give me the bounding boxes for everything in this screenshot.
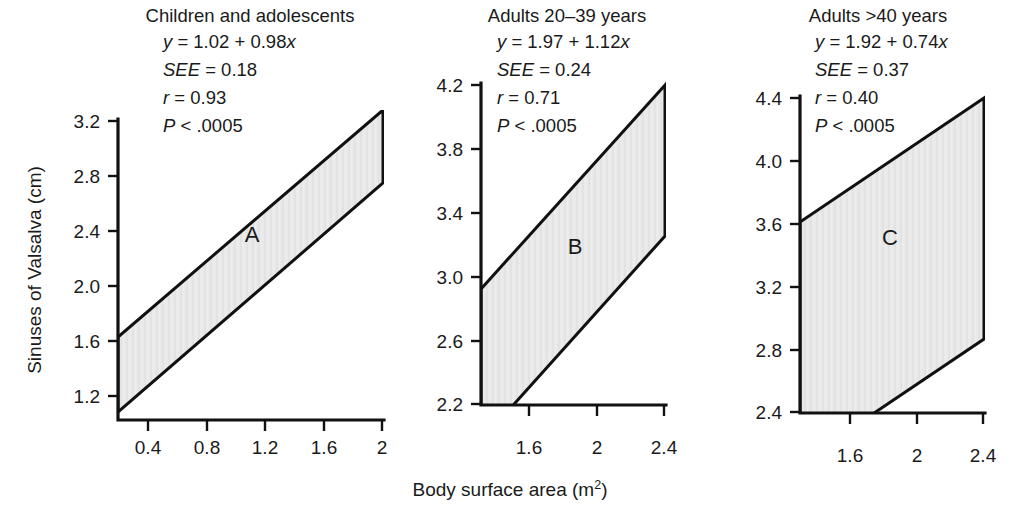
panel-c-r: r = 0.40 (815, 87, 878, 108)
x-axis-title: Body surface area (m2) (413, 478, 608, 500)
panel-c-ytick-0: 4.4 (756, 88, 783, 109)
panel-c-xtick-2: 2.4 (970, 445, 997, 466)
panel-b-letter: B (568, 234, 583, 259)
panel-a-band (118, 110, 383, 412)
panel-b-x-ticks (529, 405, 664, 416)
figure-root: Children and adolescents y = 1.02 + 0.98… (0, 0, 1031, 512)
panel-c-title: Adults >40 years (809, 5, 947, 26)
panel-c-see: SEE = 0.37 (815, 59, 909, 80)
panel-a: Children and adolescents y = 1.02 + 0.98… (74, 5, 388, 458)
panel-c-xtick-0: 1.6 (837, 445, 863, 466)
panel-a-ytick-2: 2.4 (74, 221, 101, 242)
panel-b-xtick-2: 2.4 (651, 437, 678, 458)
panel-a-ytick-0: 3.2 (74, 111, 100, 132)
y-axis-title: Sinuses of Valsalva (cm) (24, 166, 45, 374)
panel-b-ytick-4: 2.6 (437, 331, 463, 352)
panel-b-xtick-0: 1.6 (516, 437, 542, 458)
panel-a-xtick-2: 1.2 (252, 437, 278, 458)
panel-c-ytick-5: 2.4 (756, 402, 783, 423)
panel-a-ytick-1: 2.8 (74, 166, 100, 187)
panel-b-ytick-5: 2.2 (437, 394, 463, 415)
panel-a-letter: A (245, 222, 260, 247)
panel-b-ytick-2: 3.4 (437, 203, 464, 224)
panel-c-ytick-1: 4.0 (756, 151, 782, 172)
panel-b-xtick-1: 2 (592, 437, 603, 458)
panel-a-ytick-3: 2.0 (74, 276, 100, 297)
panel-b-band (481, 85, 665, 441)
panel-b-p: P < .0005 (497, 115, 577, 136)
panel-c-x-ticks (850, 413, 983, 424)
panel-a-xtick-3: 1.6 (311, 437, 337, 458)
panel-c-ytick-2: 3.6 (756, 214, 782, 235)
panel-c: Adults >40 years y = 1.92 + 0.74x SEE = … (756, 5, 997, 466)
chart-canvas: Children and adolescents y = 1.02 + 0.98… (0, 0, 1031, 512)
panel-a-r: r = 0.93 (163, 87, 226, 108)
panel-a-see: SEE = 0.18 (163, 59, 257, 80)
panel-c-letter: C (882, 225, 898, 250)
panel-a-equation: y = 1.02 + 0.98x (161, 31, 296, 52)
panel-c-band (800, 98, 984, 463)
panel-b-ytick-1: 3.8 (437, 139, 463, 160)
panel-c-xtick-1: 2 (912, 445, 923, 466)
panel-c-p: P < .0005 (815, 115, 895, 136)
panel-a-xtick-1: 0.8 (194, 437, 220, 458)
panel-c-ytick-4: 2.8 (756, 340, 782, 361)
panel-c-equation: y = 1.92 + 0.74x (813, 31, 948, 52)
panel-b-see: SEE = 0.24 (497, 59, 591, 80)
panel-a-xtick-4: 2 (377, 437, 388, 458)
panel-a-title: Children and adolescents (146, 5, 355, 26)
panel-b-ytick-0: 4.2 (437, 75, 463, 96)
panel-b-ytick-3: 3.0 (437, 267, 463, 288)
panel-b-title: Adults 20–39 years (488, 5, 646, 26)
panel-a-xtick-0: 0.4 (135, 437, 162, 458)
panel-a-ytick-4: 1.6 (74, 331, 100, 352)
panel-c-ytick-3: 3.2 (756, 277, 782, 298)
panel-b-r: r = 0.71 (497, 87, 560, 108)
panel-a-p: P < .0005 (163, 115, 243, 136)
panel-a-ytick-5: 1.2 (74, 386, 100, 407)
panel-a-x-ticks (148, 420, 382, 431)
panel-b: Adults 20–39 years y = 1.97 + 1.12x SEE … (437, 5, 678, 458)
panel-b-equation: y = 1.97 + 1.12x (495, 31, 630, 52)
